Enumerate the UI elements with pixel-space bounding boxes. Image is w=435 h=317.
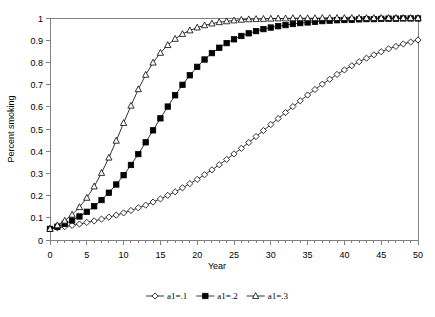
x-tick-label: 40 [339, 250, 349, 260]
legend-item[interactable]: a1=.1 [146, 291, 187, 301]
y-tick-label: 0.6 [30, 102, 43, 112]
marker-open-diamond [128, 207, 134, 213]
marker-filled-square [187, 73, 192, 78]
chart-legend: a1=.1a1=.2a1=.3 [146, 291, 288, 301]
marker-filled-square [224, 40, 229, 45]
x-axis-tick-labels: 05101520253035404550 [47, 250, 423, 260]
marker-open-diamond [231, 151, 237, 157]
y-axis-title: Percent smoking [6, 95, 16, 162]
marker-filled-square [91, 204, 96, 209]
y-tick-label: 0 [38, 236, 43, 246]
marker-open-diamond [113, 212, 119, 218]
marker-open-diamond [341, 67, 347, 73]
marker-open-diamond [91, 218, 97, 224]
marker-filled-square [150, 128, 155, 133]
legend-item[interactable]: a1=.3 [247, 291, 289, 301]
marker-filled-square [298, 20, 303, 25]
marker-open-diamond [121, 210, 127, 216]
x-axis-ticks [50, 240, 418, 245]
x-tick-label: 45 [376, 250, 386, 260]
marker-open-triangle [120, 120, 126, 126]
marker-open-diamond [201, 172, 207, 178]
x-tick-label: 35 [303, 250, 313, 260]
x-tick-label: 5 [84, 250, 89, 260]
marker-filled-square [121, 172, 126, 177]
marker-open-diamond [378, 49, 384, 55]
series-layer [47, 15, 421, 232]
x-tick-label: 25 [229, 250, 239, 260]
marker-filled-square [128, 162, 133, 167]
marker-filled-square [209, 50, 214, 55]
marker-open-triangle [246, 16, 252, 22]
y-tick-label: 0.8 [30, 58, 43, 68]
marker-open-diamond [224, 156, 230, 162]
marker-open-triangle [179, 31, 185, 37]
marker-open-diamond [334, 71, 340, 77]
plot-frame [50, 18, 418, 240]
series-markers [47, 16, 420, 232]
marker-open-diamond [106, 214, 112, 220]
marker-open-diamond [143, 202, 149, 208]
marker-filled-square [253, 28, 258, 33]
x-tick-label: 20 [192, 250, 202, 260]
y-tick-label: 0.2 [30, 191, 43, 201]
marker-open-triangle [172, 35, 178, 41]
marker-filled-square [158, 116, 163, 121]
marker-filled-square [239, 33, 244, 38]
y-tick-label: 0.3 [30, 169, 43, 179]
marker-filled-square [217, 45, 222, 50]
marker-open-diamond [312, 86, 318, 92]
marker-open-diamond [98, 216, 104, 222]
y-tick-label: 0.7 [30, 80, 43, 90]
legend-label: a1=.1 [167, 291, 187, 301]
y-tick-label: 0.5 [30, 125, 43, 135]
marker-filled-square [180, 82, 185, 87]
marker-open-diamond [84, 219, 90, 225]
marker-filled-square [275, 24, 280, 29]
marker-filled-square [202, 57, 207, 62]
marker-open-diamond [172, 189, 178, 195]
marker-open-triangle [165, 42, 171, 48]
marker-open-diamond [187, 181, 193, 187]
marker-filled-square [69, 218, 74, 223]
marker-filled-square [77, 214, 82, 219]
legend-label: a1=.2 [217, 291, 237, 301]
marker-open-diamond [363, 55, 369, 61]
marker-open-triangle [62, 217, 68, 223]
y-tick-label: 0.1 [30, 213, 43, 223]
y-axis-tick-labels: 00.10.20.30.40.50.60.70.80.91 [30, 14, 43, 246]
marker-open-diamond [150, 199, 156, 205]
chart-figure: 05101520253035404550 00.10.20.30.40.50.6… [0, 0, 435, 317]
marker-filled-square [283, 22, 288, 27]
marker-open-diamond [408, 39, 414, 45]
x-axis-title: Year [208, 261, 226, 271]
marker-open-diamond [76, 221, 82, 227]
marker-filled-square [99, 197, 104, 202]
marker-open-diamond [349, 63, 355, 69]
marker-open-diamond [356, 59, 362, 65]
marker-open-diamond [194, 176, 200, 182]
marker-open-diamond [135, 205, 141, 211]
marker-open-triangle [135, 86, 141, 92]
marker-open-diamond [165, 192, 171, 198]
marker-filled-square [231, 37, 236, 42]
marker-open-diamond [157, 196, 163, 202]
marker-filled-square [165, 104, 170, 109]
marker-open-diamond [319, 81, 325, 87]
y-tick-label: 0.4 [30, 147, 43, 157]
legend-item[interactable]: a1=.2 [196, 291, 237, 301]
marker-open-diamond [216, 162, 222, 168]
y-tick-label: 0.9 [30, 36, 43, 46]
marker-open-diamond [209, 167, 215, 173]
marker-open-triangle [253, 16, 259, 22]
marker-filled-square [195, 64, 200, 69]
marker-filled-square [114, 182, 119, 187]
marker-open-triangle [253, 293, 259, 299]
marker-open-diamond [415, 37, 421, 43]
marker-filled-square [246, 31, 251, 36]
series-line [50, 18, 418, 229]
marker-filled-square [106, 190, 111, 195]
marker-open-diamond [371, 52, 377, 58]
marker-open-triangle [113, 137, 119, 143]
marker-open-triangle [98, 170, 104, 176]
